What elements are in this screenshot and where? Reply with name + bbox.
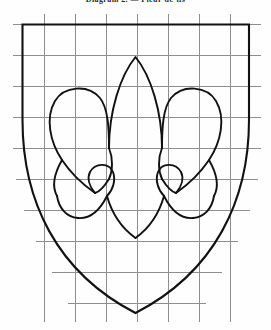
left-upper-arm [50, 89, 109, 193]
band-right-edge [159, 148, 162, 179]
lower-left-sweep [57, 196, 78, 218]
left-scroll-lower-edge [54, 160, 62, 196]
shield-path [23, 25, 250, 314]
right-upper-arm [162, 89, 221, 193]
lower-center-left [107, 196, 136, 238]
lower-right-sweep [193, 196, 214, 218]
center-petal [109, 57, 162, 148]
figure-page: Diagram 2. — Fleur-de-lis heraldic shiel… [0, 0, 271, 330]
right-scroll-lower-edge [209, 160, 217, 196]
shield-outline [23, 25, 250, 314]
band-left-edge [109, 148, 112, 179]
lower-center-right [136, 196, 165, 238]
shield-diagram: heraldic shield with fleur-de-lis on con… [0, 0, 271, 330]
lower-left-lobe [78, 196, 107, 218]
